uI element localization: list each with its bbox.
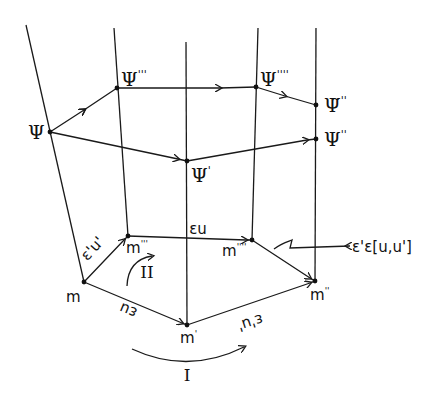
label-m1: m' bbox=[180, 329, 197, 347]
node-psi bbox=[48, 130, 53, 135]
psi-layer-edges bbox=[50, 87, 316, 161]
label-m: m bbox=[66, 288, 81, 306]
fibre-line-m4 bbox=[252, 28, 258, 240]
label-psi4: Ψ'''' bbox=[260, 68, 289, 90]
label-psi1: Ψ' bbox=[191, 164, 211, 186]
edge-m-to-m1 bbox=[84, 282, 187, 325]
node-psitilde2 bbox=[314, 103, 319, 108]
label-edge-m-m1: εu bbox=[117, 299, 140, 322]
label-psi3: Ψ''' bbox=[121, 68, 147, 90]
transport-diagram: Ψ Ψ''' Ψ'''' Ψ̃'' Ψ' Ψ'' m m''' m'''' m'… bbox=[0, 0, 432, 400]
node-psi2 bbox=[314, 137, 319, 142]
label-edge-m-m3: ε'u' bbox=[77, 233, 108, 264]
edge-psi-to-psi1 bbox=[50, 132, 187, 161]
node-psi3 bbox=[115, 86, 120, 91]
label-edge-m3-m4: εu bbox=[189, 220, 207, 238]
label-psi: Ψ bbox=[28, 121, 45, 143]
nodes bbox=[48, 85, 319, 328]
node-m4 bbox=[250, 238, 255, 243]
loop-I-arrow bbox=[132, 347, 244, 362]
label-m4: m'''' bbox=[222, 242, 247, 260]
edge-psi-to-psi3 bbox=[50, 88, 117, 132]
fibre-line-m2 bbox=[315, 28, 316, 281]
label-psitilde2: Ψ̃'' bbox=[324, 94, 347, 116]
node-m2 bbox=[313, 279, 318, 284]
node-psi1 bbox=[185, 159, 190, 164]
node-m1 bbox=[185, 323, 190, 328]
fibre-line-m1 bbox=[186, 42, 187, 325]
node-m3 bbox=[126, 234, 131, 239]
label-loop-I: I bbox=[184, 365, 191, 385]
label-commutator: ε'ε[u,u'] bbox=[352, 238, 412, 256]
commutator-arrow bbox=[274, 240, 350, 249]
label-m3: m''' bbox=[126, 239, 148, 257]
node-m bbox=[82, 280, 87, 285]
label-m2: m'' bbox=[310, 286, 330, 304]
fibre-line-m3 bbox=[114, 28, 128, 236]
label-edge-m1-m2: ε'u' bbox=[235, 310, 265, 335]
edge-m4-to-m2 bbox=[252, 240, 315, 281]
label-loop-II: II bbox=[140, 262, 153, 282]
node-psi4 bbox=[254, 85, 259, 90]
label-psi2: Ψ'' bbox=[324, 128, 347, 150]
fibre-line-m bbox=[26, 25, 84, 282]
edge-psi1-to-psi2 bbox=[187, 139, 316, 161]
